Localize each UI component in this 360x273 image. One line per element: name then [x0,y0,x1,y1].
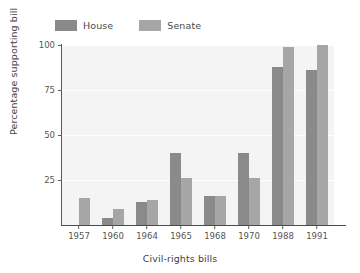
x-axis-tick-mark [78,225,79,229]
bar-senate-1991 [317,45,328,225]
legend-swatch-senate [139,20,161,31]
y-axis-tick-label: 25 [44,175,58,185]
x-axis-tick-mark [248,225,249,229]
bar-house-1960 [102,218,113,225]
legend-swatch-house [55,20,77,31]
bar-senate-1965 [181,178,192,225]
x-axis-tick: 1988 [272,225,294,241]
x-axis-tick-label: 1964 [136,231,158,241]
bar-senate-1957 [79,198,90,225]
bars-layer [62,45,334,225]
bar-house-1970 [238,153,249,225]
legend-label-senate: Senate [167,20,201,31]
x-axis-tick-mark [146,225,147,229]
x-axis-tick: 1991 [306,225,328,241]
bar-group [96,45,130,225]
x-axis-tick: 1968 [204,225,226,241]
legend-label-house: House [83,20,113,31]
x-axis-tick-mark [180,225,181,229]
x-axis-tick-label: 1988 [272,231,294,241]
y-axis-tick: 25 [44,175,62,185]
y-axis-title: Percentage supporting bill [8,8,19,135]
bar-house-1991 [306,70,317,225]
x-axis-tick-label: 1965 [170,231,192,241]
y-axis-tick: 75 [44,85,62,95]
legend-item-house: House [55,20,113,31]
bar-chart-figure: House Senate 255075100 19571960196419651… [0,0,360,273]
x-axis-tick-label: 1991 [306,231,328,241]
bar-group [300,45,334,225]
chart-legend: House Senate [55,16,201,34]
x-axis-tick: 1964 [136,225,158,241]
bar-house-1965 [170,153,181,225]
x-axis-tick: 1957 [68,225,90,241]
x-axis-tick-mark [282,225,283,229]
bar-house-1988 [272,67,283,225]
bar-senate-1970 [249,178,260,225]
bar-group [232,45,266,225]
x-axis-tick-mark [112,225,113,229]
y-axis-tick-label: 75 [44,85,58,95]
x-axis-tick-label: 1960 [102,231,124,241]
bar-house-1964 [136,202,147,225]
x-axis-ticks: 19571960196419651968197019881991 [62,225,334,251]
bar-group [62,45,96,225]
bar-group [130,45,164,225]
bar-senate-1988 [283,47,294,225]
bar-senate-1964 [147,200,158,225]
bar-house-1968 [204,196,215,225]
x-axis-tick-label: 1970 [238,231,260,241]
x-axis-tick-mark [316,225,317,229]
y-axis-tick-label: 100 [39,40,58,50]
y-axis-tick: 50 [44,130,62,140]
x-axis-tick: 1965 [170,225,192,241]
y-axis-tick-label: 50 [44,130,58,140]
x-axis-tick-label: 1957 [68,231,90,241]
bar-group [164,45,198,225]
legend-item-senate: Senate [139,20,201,31]
bar-senate-1960 [113,209,124,225]
y-axis-tick: 100 [39,40,62,50]
x-axis-tick: 1970 [238,225,260,241]
x-axis-tick-label: 1968 [204,231,226,241]
x-axis-tick: 1960 [102,225,124,241]
x-axis-title: Civil-rights bills [0,253,360,264]
bar-senate-1968 [215,196,226,225]
bar-group [266,45,300,225]
x-axis-tick-mark [214,225,215,229]
bar-group [198,45,232,225]
